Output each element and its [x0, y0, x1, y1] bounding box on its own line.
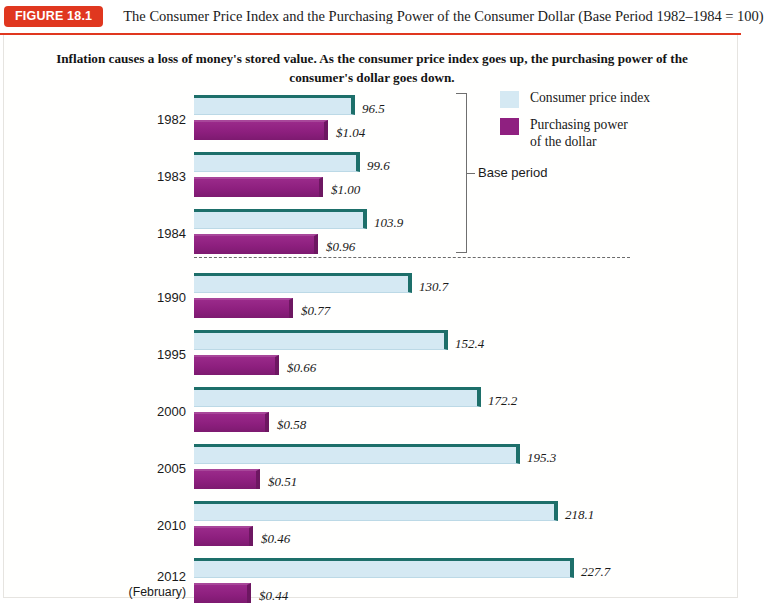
figure-panel: Inflation causes a loss of money's store…: [3, 35, 738, 598]
year-axis-label: 1995: [124, 348, 186, 363]
year-value: 2000: [157, 404, 186, 419]
bar-purchasing-power: [194, 412, 269, 432]
year-value: 1983: [157, 169, 186, 184]
bar-value-label: 172.2: [488, 391, 517, 411]
bar-value-label: $1.04: [336, 123, 365, 143]
year-value: 2012: [157, 569, 186, 584]
bar-consumer-price-index: [194, 444, 520, 464]
bar-value-label: $0.66: [287, 358, 316, 378]
bar-consumer-price-index: [194, 95, 355, 115]
figure-number-badge: FIGURE 18.1: [4, 6, 103, 28]
year-axis-label: 1982: [124, 113, 186, 128]
bar-value-label: $1.00: [331, 180, 360, 200]
bar-purchasing-power: [194, 583, 251, 603]
bar-purchasing-power: [194, 234, 318, 254]
bar-purchasing-power: [194, 298, 293, 318]
bar-purchasing-power: [194, 177, 323, 197]
bar-consumer-price-index: [194, 558, 574, 578]
year-value: 1984: [157, 226, 186, 241]
base-period-label: Base period: [478, 165, 547, 180]
bar-purchasing-power: [194, 526, 253, 546]
bar-value-label: 96.5: [362, 99, 385, 119]
figure-header: FIGURE 18.1 The Consumer Price Index and…: [0, 0, 741, 33]
bar-consumer-price-index: [194, 501, 558, 521]
legend-item: Consumer price index: [500, 90, 650, 108]
year-axis-label: 1990: [124, 291, 186, 306]
base-period-bracket-tick: [467, 173, 475, 174]
bar-value-label: 227.7: [581, 562, 610, 582]
year-value: 2010: [157, 518, 186, 533]
bar-value-label: 152.4: [455, 334, 484, 354]
figure-title: The Consumer Price Index and the Purchas…: [123, 8, 763, 25]
bar-value-label: $0.58: [277, 415, 306, 435]
year-axis-label: 2005: [124, 462, 186, 477]
base-period-bracket: [456, 93, 467, 253]
bar-consumer-price-index: [194, 387, 481, 407]
bar-value-label: 218.1: [565, 505, 594, 525]
bar-value-label: $0.44: [259, 586, 288, 606]
legend-swatch-icon: [500, 118, 519, 135]
bar-value-label: 103.9: [374, 213, 403, 233]
bar-consumer-price-index: [194, 209, 367, 229]
bar-value-label: $0.51: [268, 472, 297, 492]
bar-consumer-price-index: [194, 152, 360, 172]
bar-consumer-price-index: [194, 273, 412, 293]
legend-swatch-icon: [500, 91, 519, 108]
year-axis-label: 1983: [124, 170, 186, 185]
bar-value-label: $0.96: [326, 237, 355, 257]
bar-purchasing-power: [194, 120, 328, 140]
year-sublabel: (February): [124, 585, 186, 599]
bar-value-label: $0.77: [301, 301, 330, 321]
base-period-separator: [194, 257, 630, 258]
bar-purchasing-power: [194, 355, 279, 375]
legend-label: Consumer price index: [530, 90, 650, 107]
legend-label: Purchasing power of the dollar: [530, 117, 628, 150]
bar-purchasing-power: [194, 469, 260, 489]
year-value: 1982: [157, 112, 186, 127]
bar-consumer-price-index: [194, 330, 448, 350]
bar-value-label: 99.6: [367, 156, 390, 176]
bar-value-label: 195.3: [527, 448, 556, 468]
bar-value-label: 130.7: [419, 277, 448, 297]
year-axis-label: 2000: [124, 405, 186, 420]
bar-value-label: $0.46: [261, 529, 290, 549]
year-value: 1995: [157, 347, 186, 362]
year-axis-label: 2010: [124, 519, 186, 534]
year-value: 2005: [157, 461, 186, 476]
year-axis-label: 2012(February): [124, 570, 186, 599]
year-value: 1990: [157, 290, 186, 305]
chart-legend: Consumer price indexPurchasing power of …: [500, 90, 650, 159]
year-axis-label: 1984: [124, 227, 186, 242]
legend-item: Purchasing power of the dollar: [500, 117, 650, 150]
